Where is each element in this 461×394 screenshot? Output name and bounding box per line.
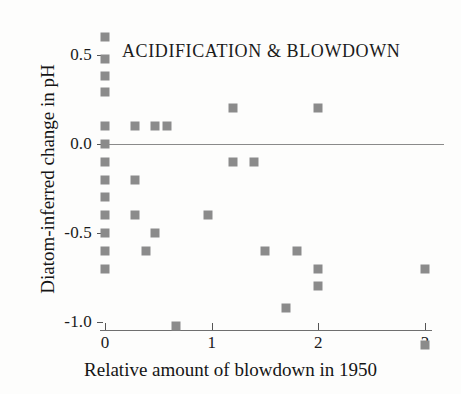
data-point xyxy=(101,33,110,42)
x-tick-label: 2 xyxy=(314,333,323,353)
y-axis-title: Diatom-inferred change in pH xyxy=(37,19,59,339)
data-point xyxy=(261,246,270,255)
data-point xyxy=(101,88,110,97)
data-point xyxy=(421,341,430,350)
plot-area xyxy=(105,30,427,325)
y-tick-label: 0.5 xyxy=(48,45,92,65)
y-tick-label: -1.0 xyxy=(48,312,92,332)
x-tick-label: 1 xyxy=(207,333,216,353)
x-axis-title: Relative amount of blowdown in 1950 xyxy=(0,359,461,381)
x-axis-line xyxy=(100,330,432,331)
data-point xyxy=(101,211,110,220)
data-point xyxy=(101,122,110,131)
x-tick-label: 0 xyxy=(101,333,110,353)
data-point xyxy=(101,54,110,63)
data-point xyxy=(293,246,302,255)
data-point xyxy=(101,246,110,255)
data-point xyxy=(229,104,238,113)
data-point xyxy=(314,264,323,273)
data-point xyxy=(101,140,110,149)
y-tick-label: -0.5 xyxy=(48,223,92,243)
data-point xyxy=(101,157,110,166)
data-point xyxy=(101,193,110,202)
data-point xyxy=(101,229,110,238)
data-point xyxy=(162,122,171,131)
data-point xyxy=(130,122,139,131)
data-point xyxy=(101,264,110,273)
data-point xyxy=(314,104,323,113)
data-point xyxy=(204,211,213,220)
data-point xyxy=(101,72,110,81)
chart-figure: ACIDIFICATION & BLOWDOWN Diatom-inferred… xyxy=(0,0,461,394)
data-point xyxy=(250,157,259,166)
data-point xyxy=(421,264,430,273)
data-point xyxy=(130,211,139,220)
data-point xyxy=(141,246,150,255)
y-tick-mark xyxy=(97,322,103,323)
data-point xyxy=(282,303,291,312)
data-point xyxy=(151,122,160,131)
data-point xyxy=(130,175,139,184)
data-point xyxy=(229,157,238,166)
data-point xyxy=(151,229,160,238)
data-point xyxy=(172,321,181,330)
data-point xyxy=(101,175,110,184)
y-tick-label: 0.0 xyxy=(48,134,92,154)
data-point xyxy=(314,282,323,291)
